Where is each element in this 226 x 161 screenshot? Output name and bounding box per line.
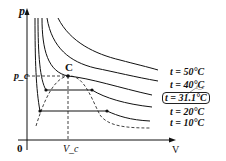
vapor-point-20c: [90, 88, 93, 91]
critical-point-label: C: [65, 62, 73, 73]
critical-point-dot: [66, 74, 70, 78]
vc-label: V_c: [63, 144, 79, 154]
saturation-dome: [36, 76, 150, 128]
isotherm-label-50c: t = 50°C: [170, 67, 204, 77]
isotherm-50c: [58, 18, 158, 70]
isotherm-critical: [42, 18, 152, 95]
tc-annotation: t_c: [196, 84, 205, 91]
y-axis-arrow: [25, 8, 30, 15]
y-axis-label: p: [19, 5, 25, 17]
isotherm-label-critical: t = 31.1°C: [162, 92, 210, 104]
isotherm-label-10c: t = 10°C: [170, 118, 204, 128]
x-axis-label: V: [172, 145, 179, 155]
liquid-point-10c: [38, 109, 41, 112]
isotherm-20c: [38, 18, 152, 107]
vapor-point-10c: [105, 109, 108, 112]
isotherm-label-20c: t = 20°C: [170, 107, 204, 117]
pc-label: p_c: [14, 71, 28, 81]
origin-label: 0: [17, 143, 23, 154]
x-axis-arrow: [169, 138, 176, 143]
pv-isotherm-diagram: p V 0 p_c V_c C t = 50°C t = 40°C t = 31…: [0, 0, 226, 161]
liquid-point-20c: [44, 88, 47, 91]
isotherm-10c: [35, 18, 150, 121]
